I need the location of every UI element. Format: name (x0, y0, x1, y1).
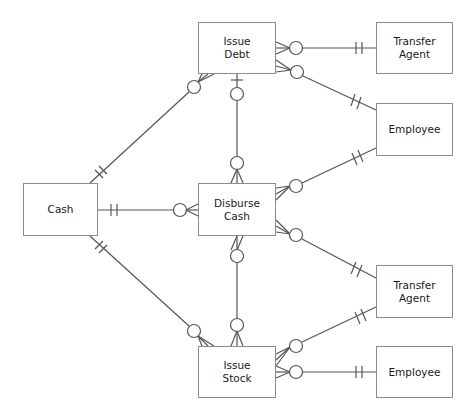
entity-label: Employee (388, 366, 440, 379)
rel-disburse-transfer-agent (276, 220, 376, 278)
entity-disburse-cash[interactable]: Disburse Cash (198, 183, 276, 236)
entity-transfer-agent-top[interactable]: Transfer Agent (376, 22, 453, 74)
entity-issue-debt[interactable]: Issue Debt (198, 22, 276, 74)
zero-circle-icon (188, 81, 201, 94)
rel-issue-stock-employee (276, 366, 376, 379)
entity-label: Issue Debt (223, 35, 250, 61)
entity-employee-top[interactable]: Employee (376, 103, 453, 156)
entity-label: Cash (48, 203, 74, 216)
entity-transfer-agent-bottom[interactable]: Transfer Agent (376, 265, 453, 318)
entity-cash[interactable]: Cash (23, 183, 98, 236)
rel-issue-debt-transfer-agent (276, 42, 376, 55)
entity-label: Issue Stock (222, 359, 251, 385)
rel-cash-disburse (98, 204, 198, 217)
entity-label: Employee (388, 123, 440, 136)
rel-issue-debt-disburse (231, 74, 244, 183)
entity-label: Disburse Cash (214, 197, 260, 223)
entity-label: Transfer Agent (393, 279, 435, 305)
rel-disburse-issue-stock (231, 236, 244, 346)
rel-cash-issue-stock (90, 236, 214, 346)
rel-cash-issue-debt (90, 74, 214, 183)
rel-disburse-employee (276, 148, 376, 200)
rel-issue-stock-transfer-agent (276, 307, 376, 366)
rel-issue-debt-employee (276, 60, 376, 110)
one-bar-icon (99, 166, 107, 174)
entity-label: Transfer Agent (393, 35, 435, 61)
entity-employee-bottom[interactable]: Employee (376, 346, 453, 398)
entity-issue-stock[interactable]: Issue Stock (198, 346, 276, 398)
